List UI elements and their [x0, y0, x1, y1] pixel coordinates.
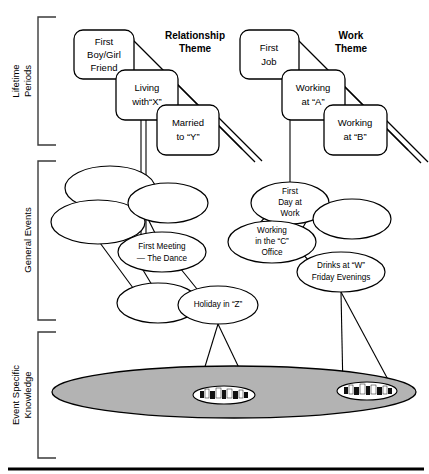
esk-cluster-left[interactable]	[193, 386, 255, 404]
theme-label-line1: Relationship	[165, 30, 225, 41]
detail-mark	[388, 388, 392, 394]
node-label-line1: Working	[296, 82, 331, 93]
oval-shape	[313, 199, 391, 239]
oval-label-line1: Drinks at “W”	[317, 261, 365, 270]
level-label-general-events: General Events	[22, 207, 33, 273]
node-label-line1: First	[95, 36, 114, 47]
oval-first-meeting-the-dance[interactable]: First Meeting — The Dance	[118, 232, 206, 272]
bracket-path	[38, 161, 56, 320]
node-label-line2: at “A”	[301, 96, 324, 107]
detail-mark	[227, 389, 232, 398]
oval-label-line2: in the “C”	[255, 237, 289, 246]
theme-label-line2: Theme	[335, 43, 368, 54]
level-bracket-lifetime-periods: Lifetime Periods	[10, 17, 56, 145]
detail-mark	[349, 385, 353, 394]
level-label-line1: Event Specific	[10, 365, 21, 425]
oval-holiday-in-z[interactable]: Holiday in “Z”	[178, 286, 258, 324]
node-label-line3: Friend	[91, 62, 118, 73]
detail-mark	[383, 386, 387, 394]
theme-label-line2: Theme	[179, 43, 212, 54]
oval-label-line2: Friday Evenings	[312, 273, 371, 282]
oval-label-line1: Holiday in “Z”	[194, 300, 243, 309]
detail-mark	[366, 386, 370, 395]
detail-mark	[205, 389, 209, 398]
level-label-line1: General Events	[22, 207, 33, 273]
node-label-line1: Married	[172, 117, 204, 128]
level-label-event-specific-knowledge: Event Specific Knowledge	[10, 365, 33, 425]
detail-mark	[222, 390, 226, 399]
node-label-line2: with“X”	[131, 96, 162, 107]
detail-mark	[377, 387, 382, 395]
oval-label-line3: Work	[281, 209, 301, 218]
node-married-to-y[interactable]: Married to “Y”	[157, 105, 219, 155]
level-bracket-general-events: General Events	[22, 161, 56, 320]
oval-label-line3: Office	[261, 248, 283, 257]
detail-mark	[371, 385, 376, 394]
level-label-line2: Periods	[22, 65, 33, 97]
oval-general-event-unlabeled-3[interactable]	[128, 183, 208, 223]
oval-label-line1: First Meeting	[138, 242, 186, 251]
detail-mark	[239, 390, 243, 398]
oval-general-event-unlabeled-5[interactable]	[313, 199, 391, 239]
node-label-line2: at “B”	[343, 131, 366, 142]
detail-mark	[344, 387, 348, 394]
theme-label-line1: Work	[339, 30, 364, 41]
detail-mark	[244, 392, 248, 398]
oval-shape	[118, 232, 206, 272]
detail-mark	[210, 391, 215, 399]
node-working-at-b[interactable]: Working at “B”	[324, 105, 387, 155]
detail-mark	[200, 391, 204, 398]
node-label-line1: Living	[135, 82, 160, 93]
detail-mark	[233, 391, 238, 399]
level-label-lifetime-periods: Lifetime Periods	[10, 64, 33, 97]
oval-label-line2: — The Dance	[137, 254, 188, 263]
level-label-line2: Knowledge	[22, 371, 33, 418]
esk-cluster-right[interactable]	[337, 382, 397, 400]
diagram-canvas: Lifetime Periods General Events Event Sp…	[0, 0, 429, 474]
oval-label-line1: First	[282, 187, 299, 196]
node-label-line1: Working	[338, 117, 373, 128]
level-label-line1: Lifetime	[10, 64, 21, 97]
detail-mark	[216, 388, 221, 398]
oval-label-line1: Working	[257, 226, 287, 235]
node-label-line2: Job	[261, 56, 276, 67]
oval-working-in-the-c-office[interactable]: Working in the “C” Office	[228, 221, 316, 263]
oval-shape	[297, 252, 385, 292]
node-label-line1: First	[260, 42, 279, 53]
level-bracket-event-specific-knowledge: Event Specific Knowledge	[10, 332, 56, 458]
node-label-line2: Boy/Girl	[87, 49, 121, 60]
detail-mark	[354, 387, 359, 395]
theme-title-work: Work Theme	[335, 30, 368, 54]
node-label-line2: to “Y”	[176, 131, 199, 142]
oval-shape	[128, 183, 208, 223]
oval-drinks-at-w-friday-evenings[interactable]: Drinks at “W” Friday Evenings	[297, 252, 385, 292]
bracket-path	[38, 17, 56, 145]
oval-label-line2: Day at	[278, 198, 302, 207]
autobiographical-memory-diagram: Lifetime Periods General Events Event Sp…	[0, 0, 429, 474]
detail-mark	[360, 384, 365, 394]
theme-title-relationship: Relationship Theme	[165, 30, 225, 54]
